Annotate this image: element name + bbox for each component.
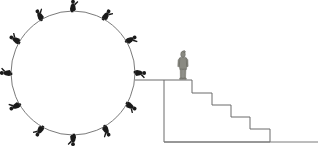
circle-figure-1 xyxy=(70,0,78,12)
walker-right-arm xyxy=(186,58,188,67)
walker-left-arm xyxy=(178,58,180,67)
walker-left-leg xyxy=(180,69,183,78)
walker-left-foot xyxy=(180,78,183,79)
circle-figure-10 xyxy=(0,68,12,76)
illustration-canvas xyxy=(0,0,320,160)
circle-figure-3 xyxy=(124,34,139,47)
circle-figure-6 xyxy=(99,124,112,139)
circle-group xyxy=(0,0,146,146)
walker-right-foot xyxy=(183,78,186,79)
staircase-outline xyxy=(164,80,270,142)
circle-figure-7 xyxy=(68,134,76,146)
walker-right-leg xyxy=(183,69,186,78)
walker-torso xyxy=(179,57,187,69)
person-on-platform xyxy=(178,51,188,80)
circle-figures-layer xyxy=(0,0,146,146)
illustration-svg xyxy=(0,0,320,160)
circle-track xyxy=(11,11,135,135)
circle-figure-12 xyxy=(34,7,47,22)
circle-figure-4 xyxy=(134,70,146,78)
circle-figure-9 xyxy=(7,99,22,112)
